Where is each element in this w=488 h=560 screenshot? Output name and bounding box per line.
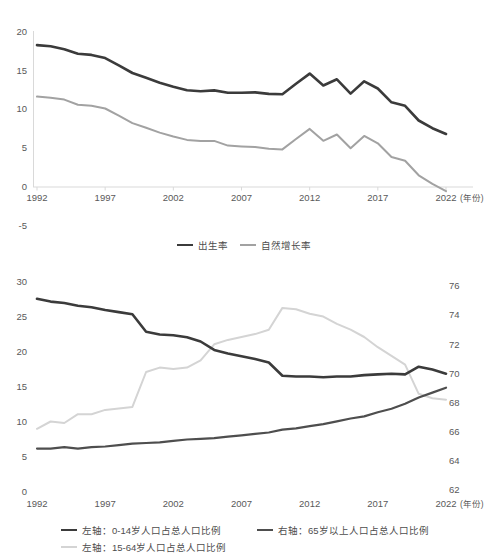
left-y-tick-label: 25 (16, 311, 27, 322)
y-tick-label: 15 (16, 65, 27, 76)
bottom-chart-legend: 左轴：0-14岁人口占总人口比例 右轴：65岁以上人口占总人口比例 左轴：15-… (61, 523, 429, 554)
legend-label-age-15-64: 左轴：15-64岁人口占总人口比例 (82, 540, 226, 554)
right-y-tick-label: 68 (449, 397, 460, 408)
top-chart-legend: 出生率 自然增长率 (0, 238, 488, 252)
y-tick-label: 10 (16, 103, 27, 114)
x-tick-label: 2002 (163, 192, 184, 203)
right-y-tick-label: 64 (449, 455, 460, 466)
x-axis-unit-label: (年份) (460, 499, 484, 509)
legend-item-natural-growth-rate: 自然增长率 (240, 238, 311, 252)
x-tick-label: 2007 (231, 192, 252, 203)
x-tick-label: 1992 (26, 192, 47, 203)
y-tick-label: 5 (22, 142, 27, 153)
legend-item-age-65-plus: 右轴：65岁以上人口占总人口比例 (257, 523, 429, 537)
age-15-64-line-swatch (61, 546, 77, 548)
x-axis-unit-label: (年份) (460, 193, 484, 203)
birth-rate-chart: -5051015201992199720022007201220172022(年… (16, 26, 483, 231)
x-tick-label: 2022 (435, 192, 456, 203)
legend-label-age-0-14: 左轴：0-14岁人口占总人口比例 (82, 523, 221, 537)
x-tick-label: 2007 (231, 498, 252, 509)
series-line-2 (37, 388, 446, 449)
x-tick-label: 2012 (299, 192, 320, 203)
birth-rate-line-swatch (177, 244, 193, 247)
age-0-14-line-swatch (61, 529, 77, 532)
left-y-tick-label: 0 (22, 486, 27, 497)
x-tick-label: 1992 (26, 498, 47, 509)
x-tick-label: 1997 (95, 192, 116, 203)
left-y-tick-label: 15 (16, 381, 27, 392)
x-tick-label: 2017 (367, 498, 388, 509)
natural-growth-line-swatch (240, 244, 256, 246)
x-tick-label: 2002 (163, 498, 184, 509)
legend-item-age-15-64: 左轴：15-64岁人口占总人口比例 (61, 540, 257, 554)
age-65-plus-line-swatch (257, 529, 273, 531)
right-y-tick-label: 70 (449, 368, 460, 379)
y-tick-label: 20 (16, 26, 27, 37)
y-tick-label: -5 (19, 220, 27, 231)
right-y-tick-label: 74 (449, 309, 460, 320)
x-tick-label: 1997 (95, 498, 116, 509)
x-tick-label: 2017 (367, 192, 388, 203)
right-y-tick-label: 66 (449, 426, 460, 437)
right-y-tick-label: 72 (449, 339, 460, 350)
legend-item-birth-rate: 出生率 (177, 238, 228, 252)
right-y-tick-label: 62 (449, 484, 460, 495)
legend-label-age-65-plus: 右轴：65岁以上人口占总人口比例 (278, 523, 429, 537)
right-y-tick-label: 76 (449, 280, 460, 291)
x-tick-label: 2012 (299, 498, 320, 509)
legend-item-age-0-14: 左轴：0-14岁人口占总人口比例 (61, 523, 257, 537)
series-line-0 (37, 45, 446, 134)
legend-label-natural-growth-rate: 自然增长率 (261, 238, 311, 252)
left-y-tick-label: 20 (16, 346, 27, 357)
charts-canvas: -5051015201992199720022007201220172022(年… (0, 0, 488, 560)
series-line-1 (37, 97, 446, 192)
demographics-charts-figure: -5051015201992199720022007201220172022(年… (0, 0, 488, 560)
left-y-tick-label: 30 (16, 276, 27, 287)
legend-label-birth-rate: 出生率 (198, 238, 228, 252)
left-y-tick-label: 10 (16, 416, 27, 427)
left-y-tick-label: 5 (22, 451, 27, 462)
x-tick-label: 2022 (435, 498, 456, 509)
y-tick-label: 0 (22, 181, 27, 192)
age-structure-chart: 0510152025306264666870727476199219972002… (16, 276, 483, 509)
